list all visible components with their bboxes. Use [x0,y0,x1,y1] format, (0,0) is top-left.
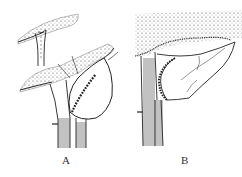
panel-b: B [121,0,242,177]
panel-label-b: B [181,154,188,166]
trunk [137,52,163,146]
panel-b-illustration [121,0,242,177]
panel-a-illustration [0,0,121,177]
panel-label-a: A [62,154,70,166]
rotated-flap [157,42,235,100]
upper-small-flap [18,14,78,66]
panel-a: A [0,0,121,177]
